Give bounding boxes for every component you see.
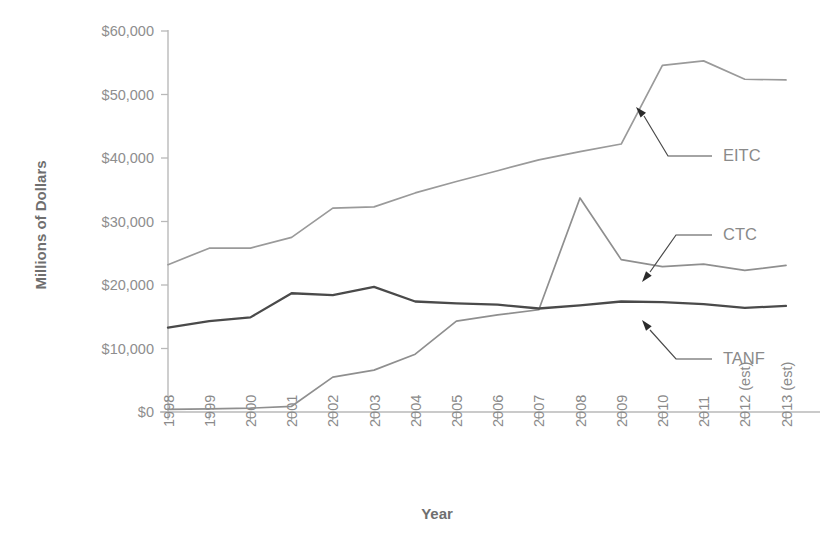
- x-axis-tick-label: 2012 (est): [737, 362, 753, 427]
- x-axis-tick-label: 2007: [531, 395, 547, 427]
- arrowhead-ctc: [642, 271, 652, 282]
- series-line-eitc: [168, 61, 786, 265]
- series-annotations: EITCCTCTANF: [636, 107, 765, 367]
- y-axis-tick-label: $30,000: [102, 214, 154, 230]
- leader-line-eitc: [644, 116, 712, 156]
- x-axis-tick-label: 2003: [367, 395, 383, 427]
- x-axis-tick-label: 2002: [325, 395, 341, 427]
- x-axis-tick-label: 2005: [449, 395, 465, 427]
- x-axis-tick-label: 2004: [408, 395, 424, 427]
- y-axis-tick-label: $20,000: [102, 277, 154, 293]
- y-axis-tick-label: $50,000: [102, 87, 154, 103]
- x-axis-tick-label: 2011: [696, 396, 712, 427]
- x-axis-tick-label: 2013 (est): [779, 362, 795, 427]
- x-axis-tick-label: 1998: [161, 395, 177, 427]
- x-axis-tick-label: 1999: [202, 395, 218, 427]
- x-axis-tick-label: 2009: [614, 395, 630, 427]
- y-axis-tick-label: $60,000: [102, 23, 154, 39]
- leader-line-tanf: [650, 330, 712, 359]
- x-axis-tick-label: 2001: [284, 395, 300, 427]
- series-label-tanf: TANF: [723, 349, 765, 367]
- page-caption-fragment: [0, 538, 834, 554]
- arrowhead-tanf: [642, 320, 652, 331]
- y-axis-tick-label: $0: [138, 404, 154, 420]
- y-axis: $0$10,000$20,000$30,000$40,000$50,000$60…: [102, 23, 168, 420]
- x-axis-tick-label: 2010: [655, 395, 671, 427]
- x-axis-tick-label: 2000: [243, 395, 259, 427]
- y-axis-tick-label: $40,000: [102, 150, 154, 166]
- line-chart-plot: Millions of Dollars Year $0$10,000$20,00…: [0, 0, 834, 554]
- x-axis-title: Year: [421, 505, 453, 522]
- x-axis: 1998199920002001200220032004200520062007…: [160, 362, 820, 427]
- y-axis-title: Millions of Dollars: [32, 160, 49, 289]
- x-axis-tick-label: 2006: [490, 395, 506, 427]
- x-axis-tick-label: 2008: [573, 395, 589, 427]
- series-label-ctc: CTC: [723, 225, 757, 243]
- chart-container: Millions of Dollars Year $0$10,000$20,00…: [0, 0, 834, 554]
- series-line-tanf: [168, 287, 786, 328]
- y-axis-tick-label: $10,000: [102, 341, 154, 357]
- series-label-eitc: EITC: [723, 146, 761, 164]
